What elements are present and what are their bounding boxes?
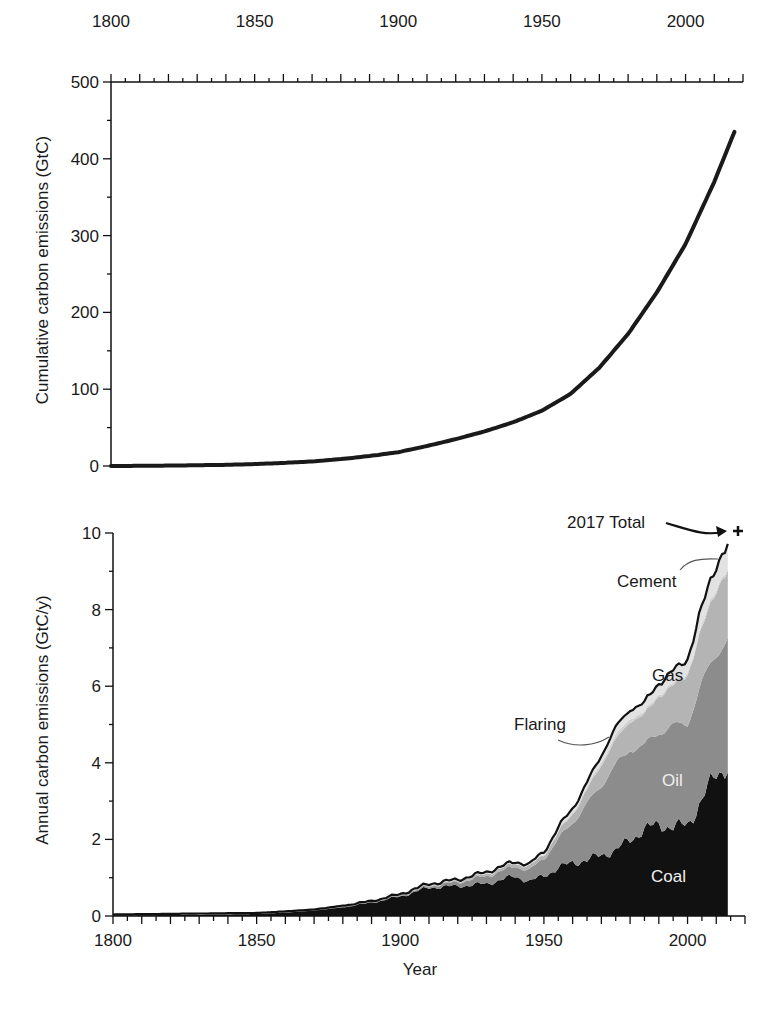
top-x-tick-label: 1800 [92, 12, 130, 31]
top-y-tick-label: 400 [71, 150, 99, 169]
flaring-leader-line [558, 737, 609, 745]
annual-emissions-chart: 18001850190019502000 0246810 Annual carb… [33, 513, 745, 979]
top-y-tick-label: 100 [71, 380, 99, 399]
top-x-tick-label: 2000 [667, 12, 705, 31]
label-coal: Coal [651, 867, 686, 886]
bottom-y-tick-label: 8 [92, 601, 101, 620]
top-y-axis-title: Cumulative carbon emissions (GtC) [33, 136, 52, 404]
bottom-y-tick-label: 4 [92, 754, 101, 773]
bottom-y-axis-title: Annual carbon emissions (GtC/y) [33, 595, 52, 844]
top-x-axis: 18001850190019502000 [92, 12, 743, 82]
bottom-x-tick-label: 1800 [94, 931, 132, 950]
stacked-areas [113, 545, 728, 916]
bottom-x-axis: 18001850190019502000 [94, 916, 745, 950]
top-x-tick-label: 1950 [523, 12, 561, 31]
bottom-y-tick-label: 2 [92, 830, 101, 849]
arrowhead-icon [716, 526, 727, 537]
label-gas: Gas [652, 666, 683, 685]
label-oil: Oil [662, 771, 683, 790]
top-y-tick-label: 200 [71, 303, 99, 322]
annotation-cement: Cement [617, 572, 677, 591]
bottom-y-tick-label: 6 [92, 677, 101, 696]
top-x-tick-label: 1850 [236, 12, 274, 31]
bottom-y-tick-label: 10 [82, 524, 101, 543]
bottom-x-tick-label: 1900 [381, 931, 419, 950]
annotation-2017-total: 2017 Total [567, 513, 645, 532]
total-plus-marker-icon [733, 526, 743, 536]
cumulative-emissions-chart: 18001850190019502000 0100200300400500 Cu… [33, 12, 743, 476]
bottom-x-tick-label: 1950 [525, 931, 563, 950]
bottom-x-tick-label: 1850 [238, 931, 276, 950]
bottom-y-axis: 0246810 [82, 524, 113, 926]
top-y-tick-label: 300 [71, 227, 99, 246]
top-y-tick-label: 0 [90, 457, 99, 476]
arrow-2017-total-icon [666, 523, 722, 533]
top-x-tick-label: 1900 [379, 12, 417, 31]
bottom-x-tick-label: 2000 [669, 931, 707, 950]
top-y-tick-label: 500 [71, 73, 99, 92]
annotation-flaring: Flaring [514, 715, 566, 734]
top-y-axis: 0100200300400500 [71, 73, 111, 476]
cement-leader-line [680, 559, 718, 570]
bottom-y-tick-label: 0 [92, 907, 101, 926]
emissions-figure: 18001850190019502000 0100200300400500 Cu… [0, 0, 778, 1010]
cumulative-emissions-line [111, 132, 734, 466]
bottom-x-axis-title: Year [403, 960, 438, 979]
